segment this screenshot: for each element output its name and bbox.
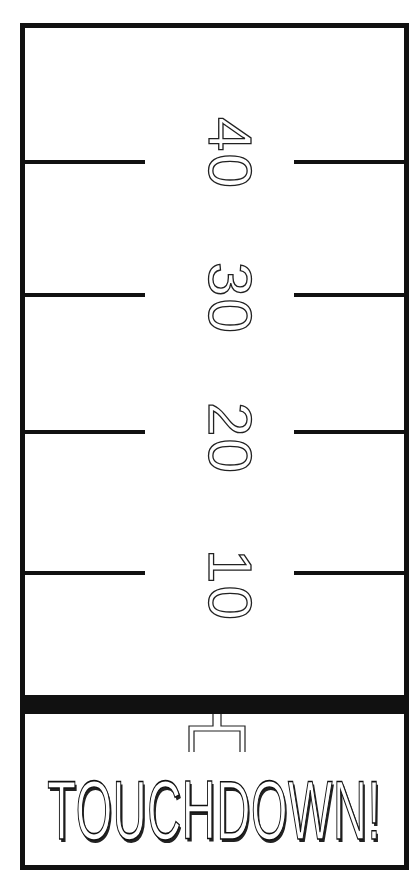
- yard-line-30-right: [294, 293, 404, 297]
- yard-number-label: 30: [195, 262, 266, 335]
- goal-post-icon: [185, 714, 249, 754]
- yard-line-40-left: [25, 160, 145, 164]
- yard-number-label: 40: [195, 117, 266, 190]
- yard-line-20-left: [25, 430, 145, 434]
- yard-line-30-left: [25, 293, 145, 297]
- yard-number-label: 20: [195, 402, 266, 475]
- yard-number-40: 40: [175, 113, 285, 193]
- yard-number-10: 10: [175, 545, 285, 625]
- yard-line-40-right: [294, 160, 404, 164]
- yard-line-20-right: [294, 430, 404, 434]
- football-field: 40 30 20 10 TOUCHDOWN!: [20, 23, 409, 870]
- touchdown-text: TOUCHDOWN!: [48, 770, 382, 850]
- goal-line: [25, 695, 404, 714]
- yard-number-20: 20: [175, 398, 285, 478]
- touchdown-banner: TOUCHDOWN!: [25, 770, 404, 850]
- yard-number-label: 10: [195, 549, 266, 622]
- yard-line-10-right: [294, 571, 404, 575]
- yard-line-10-left: [25, 571, 145, 575]
- yard-number-30: 30: [175, 258, 285, 338]
